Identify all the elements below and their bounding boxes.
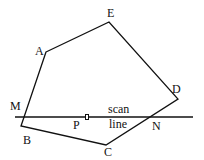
label-p: P: [73, 118, 80, 132]
scanline-diagram: AEDCBMNP scan line: [0, 0, 204, 160]
label-n: N: [152, 119, 161, 133]
label-d: D: [172, 82, 181, 96]
label-a: A: [35, 44, 44, 58]
scan-label: scan: [108, 102, 129, 116]
label-c: C: [104, 145, 112, 159]
line-label: line: [109, 117, 127, 131]
label-b: B: [23, 133, 31, 147]
point-p-marker: [86, 115, 89, 120]
label-e: E: [107, 6, 114, 20]
label-m: M: [10, 99, 21, 113]
